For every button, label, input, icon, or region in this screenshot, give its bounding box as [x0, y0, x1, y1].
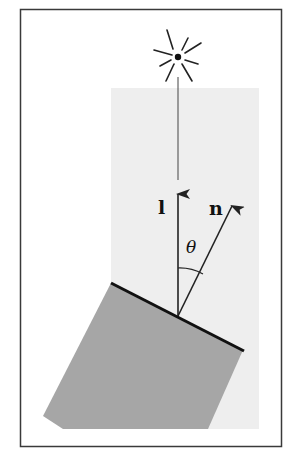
angle-label: θ — [186, 237, 196, 257]
lambert-diagram: l n θ — [0, 0, 294, 453]
light-vector-label: l — [158, 196, 165, 218]
normal-vector-label: n — [209, 197, 223, 219]
